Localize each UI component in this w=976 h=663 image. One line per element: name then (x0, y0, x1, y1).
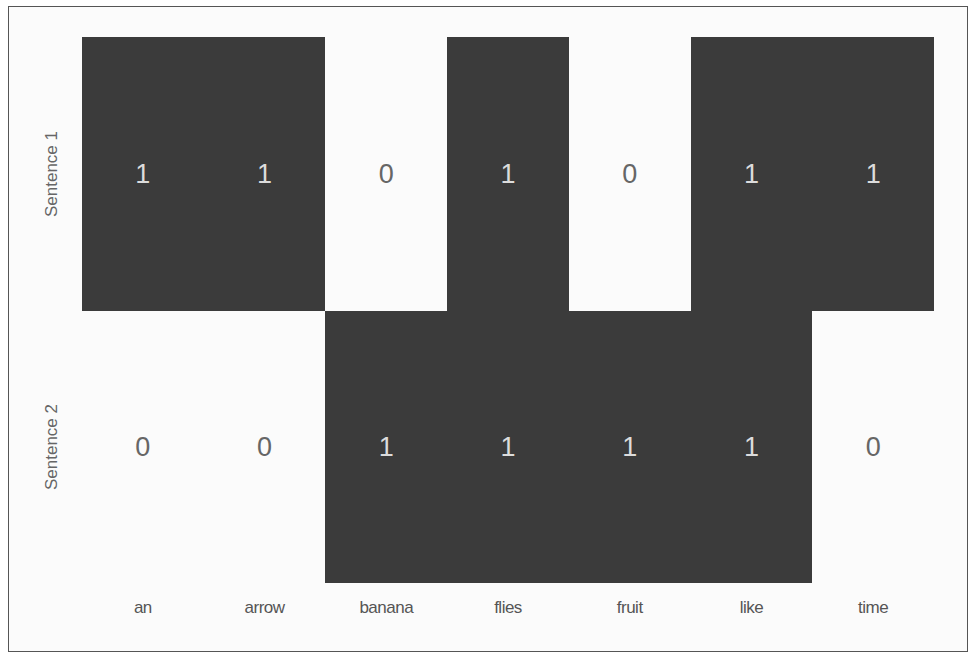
x-label: fruit (569, 598, 691, 618)
heatmap-grid: 1 1 0 1 0 1 1 0 0 1 1 1 1 0 (82, 37, 934, 583)
x-label: like (691, 598, 813, 618)
x-label: arrow (204, 598, 326, 618)
heatmap-cell: 0 (204, 311, 326, 583)
x-label: time (812, 598, 934, 618)
heatmap-cell: 0 (82, 311, 204, 583)
heatmap-cell: 1 (82, 37, 204, 311)
heatmap-cell: 1 (447, 37, 569, 311)
heatmap-cell: 1 (569, 311, 691, 583)
x-axis-labels: an arrow banana flies fruit like time (82, 598, 934, 618)
y-label-sentence-1: Sentence 1 (42, 131, 62, 217)
heatmap-cell: 1 (325, 311, 447, 583)
heatmap-cell: 0 (325, 37, 447, 311)
x-label: flies (447, 598, 569, 618)
x-label: banana (325, 598, 447, 618)
heatmap-cell: 1 (204, 37, 326, 311)
heatmap-cell: 1 (447, 311, 569, 583)
heatmap-cell: 0 (569, 37, 691, 311)
heatmap-cell: 1 (812, 37, 934, 311)
heatmap-cell: 1 (691, 311, 813, 583)
heatmap-cell: 0 (812, 311, 934, 583)
heatmap-cell: 1 (691, 37, 813, 311)
y-label-sentence-2: Sentence 2 (42, 404, 62, 490)
x-label: an (82, 598, 204, 618)
